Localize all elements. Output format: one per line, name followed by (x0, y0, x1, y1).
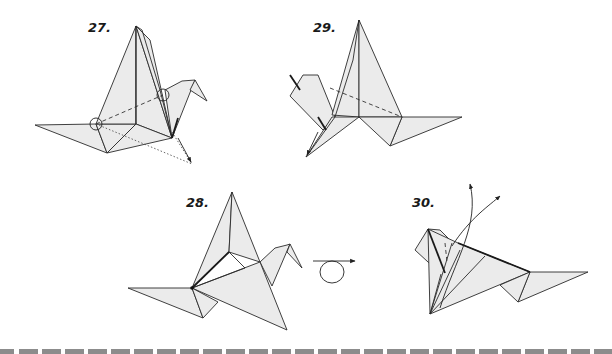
step-30-figure (415, 184, 588, 314)
step-28-figure (128, 192, 302, 330)
turn-over-icon (313, 261, 355, 283)
step-label-27: 27. (88, 20, 111, 35)
step-27-figure (35, 26, 207, 164)
step-label-28: 28. (186, 195, 209, 210)
fold-arrow (178, 138, 191, 162)
origami-diagram (0, 0, 612, 354)
step-29-figure (290, 20, 462, 157)
pull-arrow (452, 196, 500, 246)
cut-line-strip (0, 349, 612, 354)
step-label-30: 30. (412, 195, 435, 210)
step-label-29: 29. (313, 20, 336, 35)
